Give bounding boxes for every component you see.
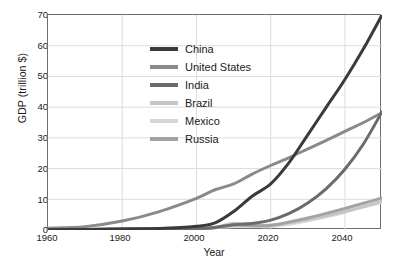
legend-item-russia[interactable]: Russia: [150, 131, 251, 147]
legend-swatch-russia: [150, 137, 178, 141]
legend-item-china[interactable]: China: [150, 41, 251, 57]
legend-label-india: India: [185, 80, 209, 91]
x-tick-label: 2040: [320, 233, 364, 243]
y-tick-label: 30: [8, 133, 48, 143]
legend-item-united-states[interactable]: United States: [150, 59, 251, 75]
legend-label-brazil: Brazil: [185, 98, 213, 109]
y-tick-label: 50: [8, 71, 48, 81]
x-tick-label: 2000: [172, 233, 216, 243]
legend-label-china: China: [185, 44, 214, 55]
y-tick-label: 70: [8, 10, 48, 20]
legend-swatch-brazil: [150, 101, 178, 105]
y-tick-label: 40: [8, 102, 48, 112]
y-tick-label: 60: [8, 41, 48, 51]
y-tick-label: 20: [8, 164, 48, 174]
legend-label-united-states: United States: [185, 62, 251, 73]
gdp-projection-chart: GDP (trillion $) 70 60 50 40 30 20 10 0 …: [0, 0, 400, 267]
x-tick-label: 1960: [25, 233, 69, 243]
legend-swatch-united-states: [150, 65, 178, 69]
x-axis-title: Year: [47, 246, 381, 258]
legend-label-mexico: Mexico: [185, 116, 220, 127]
x-tick-label: 2020: [246, 233, 290, 243]
legend-item-mexico[interactable]: Mexico: [150, 113, 251, 129]
legend-label-russia: Russia: [185, 134, 219, 145]
legend-item-india[interactable]: India: [150, 77, 251, 93]
legend-item-brazil[interactable]: Brazil: [150, 95, 251, 111]
legend-swatch-india: [150, 83, 178, 87]
legend-swatch-china: [150, 47, 178, 51]
legend: China United States India Brazil Mexico …: [150, 41, 251, 147]
legend-swatch-mexico: [150, 119, 178, 123]
y-tick-label: 10: [8, 195, 48, 205]
x-tick-label: 1980: [98, 233, 142, 243]
